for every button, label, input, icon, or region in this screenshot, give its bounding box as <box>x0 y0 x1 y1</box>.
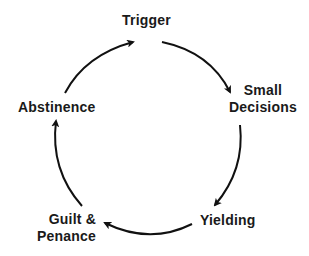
node-guilt-penance-line2: Penance <box>30 228 96 245</box>
node-small-decisions-line1: Small <box>226 82 300 99</box>
node-guilt-penance: Guilt & Penance <box>30 211 96 245</box>
arrow-guilt-penance-to-abstinence <box>55 121 82 206</box>
node-guilt-penance-line1: Guilt & <box>30 211 96 228</box>
node-yielding-label: Yielding <box>200 212 256 228</box>
node-small-decisions: Small Decisions <box>226 82 300 116</box>
arrow-trigger-to-small-decisions <box>162 42 230 92</box>
arrow-small-decisions-to-yielding <box>215 125 241 205</box>
node-abstinence: Abstinence <box>18 99 95 116</box>
node-small-decisions-line2: Decisions <box>226 99 300 116</box>
node-trigger-label: Trigger <box>122 12 171 28</box>
node-abstinence-label: Abstinence <box>18 99 95 115</box>
cycle-diagram: Trigger Small Decisions Yielding Guilt &… <box>0 0 309 256</box>
node-trigger: Trigger <box>122 12 171 29</box>
arrow-abstinence-to-trigger <box>65 42 133 93</box>
node-yielding: Yielding <box>200 212 256 229</box>
arrow-yielding-to-guilt-penance <box>105 223 192 234</box>
